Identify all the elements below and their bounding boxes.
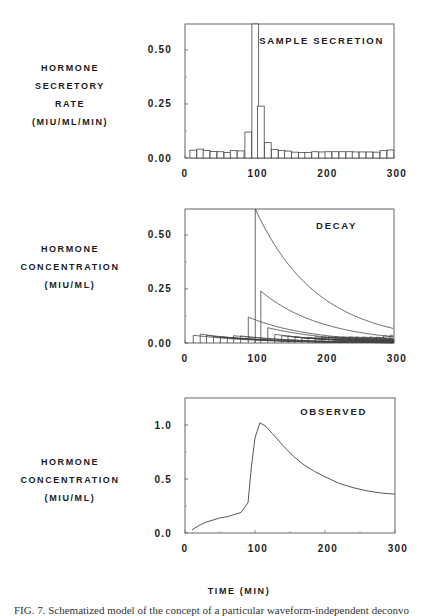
secretion-bar <box>373 152 380 158</box>
secretion-bar <box>305 152 312 158</box>
panel-title: OBSERVED <box>300 406 367 417</box>
x-tick-label: 100 <box>248 543 268 554</box>
secretion-bar <box>278 151 285 158</box>
secretion-bar <box>339 152 346 158</box>
y-tick-label: 0.0 <box>154 528 172 539</box>
secretion-bar <box>352 152 359 158</box>
x-tick-label: 100 <box>248 168 268 179</box>
figure-caption: FIG. 7. Schematized model of the concept… <box>14 604 409 616</box>
plot-frame <box>185 398 395 533</box>
x-axis-title: TIME (MIN) <box>0 586 428 596</box>
x-tick-label: 0 <box>182 543 189 554</box>
secretion-bar <box>387 150 394 158</box>
panel-title: DECAY <box>316 220 357 231</box>
panel-decay: 0.000.250.500100200300DECAY <box>148 209 407 364</box>
panel-sample-secretion: 0.000.250.500100200300SAMPLE SECRETION <box>148 24 407 179</box>
secretion-bar <box>359 152 366 158</box>
secretion-bar <box>332 152 339 158</box>
secretion-bar <box>285 151 292 158</box>
secretion-bar <box>325 152 332 158</box>
x-tick-label: 0 <box>182 353 189 364</box>
y-tick-label: 0.25 <box>148 98 172 109</box>
x-tick-label: 200 <box>317 353 337 364</box>
secretion-bar <box>366 152 373 158</box>
x-tick-label: 300 <box>387 168 407 179</box>
secretion-bar <box>245 132 252 158</box>
x-tick-label: 0 <box>182 168 189 179</box>
y-tick-label: 0.5 <box>154 474 172 485</box>
x-tick-label: 200 <box>317 168 337 179</box>
secretion-bar <box>190 150 197 158</box>
secretion-bar <box>203 150 210 158</box>
observed-curve <box>192 423 395 530</box>
x-tick-label: 200 <box>318 543 338 554</box>
x-tick-label: 300 <box>388 543 408 554</box>
y-tick-label: 0.25 <box>148 283 172 294</box>
x-tick-label: 300 <box>387 353 407 364</box>
plot-frame <box>185 209 394 343</box>
y-tick-label: 1.0 <box>154 420 172 431</box>
y-tick-label: 0.50 <box>148 44 172 55</box>
secretion-bar <box>237 151 244 158</box>
x-tick-label: 100 <box>248 353 268 364</box>
secretion-bar <box>271 149 278 158</box>
secretion-bar <box>264 143 271 158</box>
secretion-bar <box>312 152 319 158</box>
secretion-bar <box>319 152 326 158</box>
secretion-bar <box>230 151 237 158</box>
y-tick-label: 0.00 <box>148 153 172 164</box>
secretion-bar <box>224 152 231 158</box>
secretion-bar <box>346 152 353 158</box>
secretion-bar <box>292 152 299 158</box>
secretion-bar <box>257 106 264 158</box>
secretion-bar <box>299 153 306 158</box>
panel-title: SAMPLE SECRETION <box>259 35 384 46</box>
y-tick-label: 0.50 <box>148 229 172 240</box>
secretion-bar <box>210 152 217 158</box>
secretion-bar <box>217 152 224 158</box>
y-tick-label: 0.00 <box>148 338 172 349</box>
secretion-bar <box>197 149 204 158</box>
panel-observed: 0.00.51.00100200300OBSERVED <box>154 398 408 554</box>
secretion-bar <box>380 151 387 158</box>
